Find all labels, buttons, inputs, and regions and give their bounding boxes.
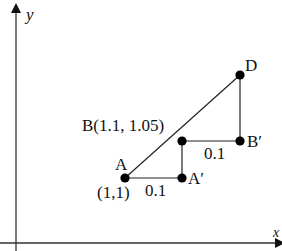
point-a-prime-label: A′ — [188, 170, 204, 187]
point-b — [177, 136, 186, 145]
point-d-label: D — [245, 57, 257, 74]
point-d — [235, 70, 244, 79]
x-axis-label: x — [273, 226, 279, 240]
segment-aa-prime-length: 0.1 — [145, 182, 166, 199]
point-b-prime-label: B′ — [247, 133, 262, 150]
point-a-prime — [177, 173, 186, 182]
y-axis-label: y — [26, 6, 34, 23]
point-b-label: B(1.1, 1.05) — [82, 117, 164, 134]
point-a — [120, 173, 129, 182]
point-a-label: A — [115, 156, 127, 173]
diagram-canvas: y x A (1,1) A′ B(1.1, 1.05) B′ D 0.1 0.1 — [0, 0, 282, 251]
segment-bb-prime-length: 0.1 — [204, 145, 225, 162]
point-a-coord-label: (1,1) — [97, 184, 130, 201]
point-b-prime — [235, 136, 244, 145]
